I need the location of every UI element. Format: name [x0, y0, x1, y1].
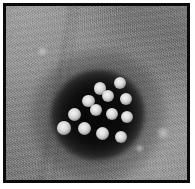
micrograph-frame	[3, 3, 190, 183]
virus-particle	[90, 104, 102, 116]
film-tone-patches-secondary	[6, 6, 187, 180]
virus-particle	[82, 95, 95, 108]
virus-particle	[68, 108, 81, 121]
virus-particle	[115, 131, 127, 143]
virus-particle	[94, 82, 107, 95]
virus-particle	[78, 122, 91, 135]
film-tone-patches-primary	[6, 6, 187, 180]
film-streak-artifacts	[6, 6, 187, 180]
virus-particle	[121, 111, 133, 123]
virus-particle	[106, 108, 119, 121]
negative-stain-pool	[38, 56, 159, 175]
stain-fleck	[135, 144, 144, 153]
virus-particle	[114, 77, 126, 89]
micrograph-figure: Electron micrograph of clustered virus p…	[0, 0, 195, 189]
film-grain-texture	[6, 6, 187, 180]
virus-particle	[102, 90, 114, 102]
stain-fleck	[37, 46, 48, 57]
virus-particle	[57, 121, 71, 135]
negative-stain-halo-outer	[10, 29, 186, 180]
support-film-background	[6, 6, 187, 180]
virus-particle	[120, 93, 132, 105]
film-grain-texture-fine	[6, 6, 187, 180]
stain-fleck	[156, 126, 170, 140]
virus-particle	[96, 127, 109, 140]
